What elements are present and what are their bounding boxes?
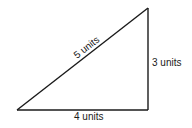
right-triangle-diagram: 5 units 3 units 4 units — [0, 0, 192, 128]
vertical-side-label: 3 units — [152, 57, 181, 68]
triangle-svg: 5 units 3 units 4 units — [0, 0, 192, 128]
hypotenuse-side — [17, 8, 148, 110]
base-label: 4 units — [74, 111, 103, 122]
